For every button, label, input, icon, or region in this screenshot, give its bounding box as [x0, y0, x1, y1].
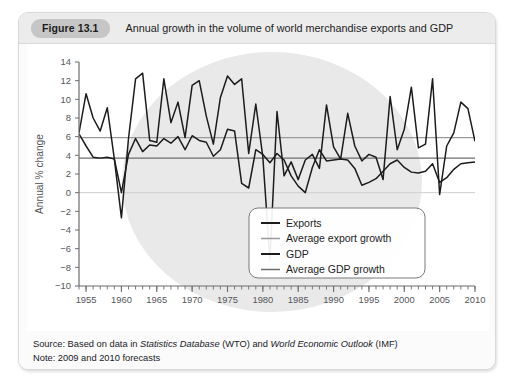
y-tick-label: 12: [61, 75, 71, 86]
y-axis-title: Annual % change: [34, 134, 45, 214]
x-tick-label: 1960: [111, 294, 132, 305]
y-tick-label: −4: [60, 224, 71, 235]
y-tick-label: −2: [60, 206, 71, 217]
legend-label: Average export growth: [286, 232, 392, 244]
y-tick-label: 4: [66, 150, 71, 161]
y-tick-label: −8: [60, 262, 71, 273]
x-tick-label: 1975: [217, 294, 238, 305]
line-chart: 14121086420−2−4−6−8−10 19551960196519701…: [27, 44, 489, 332]
chart-panel: 14121086420−2−4−6−8−10 19551960196519701…: [27, 44, 489, 332]
y-tick-label: 2: [66, 168, 71, 179]
legend-label: Average GDP growth: [286, 263, 385, 275]
x-tick-label: 2005: [429, 294, 450, 305]
x-tick-label: 1970: [182, 294, 203, 305]
x-tick-label: 1985: [288, 294, 309, 305]
y-tick-label: 6: [66, 131, 71, 142]
x-tick-label: 2000: [394, 294, 415, 305]
source-italic-1: Statistics Database: [140, 339, 220, 349]
forecast-note: Note: 2009 and 2010 forecasts: [33, 351, 495, 365]
x-tick-label: 1990: [323, 294, 344, 305]
legend-label: Exports: [286, 217, 322, 229]
source-prefix: Source: Based on data in: [33, 339, 140, 349]
x-tick-label: 1980: [252, 294, 273, 305]
source-italic-2: World Economic Outlook: [271, 339, 373, 349]
figure-footer: Source: Based on data in Statistics Data…: [19, 331, 495, 369]
y-tick-label: −6: [60, 243, 71, 254]
source-note: Source: Based on data in Statistics Data…: [33, 337, 495, 351]
figure-number-badge: Figure 13.1: [31, 19, 110, 38]
source-suffix: (IMF): [373, 339, 398, 349]
y-tick-label: 0: [66, 187, 71, 198]
y-tick-label: 8: [66, 112, 71, 123]
figure-title: Annual growth in the volume of world mer…: [126, 22, 454, 34]
x-tick-label: 1965: [146, 294, 167, 305]
figure-header: Figure 13.1 Annual growth in the volume …: [19, 13, 495, 44]
x-tick-label: 1995: [358, 294, 379, 305]
y-tick-label: 10: [61, 94, 71, 105]
y-tick-label: −10: [55, 280, 71, 291]
source-middle: (WTO) and: [220, 339, 271, 349]
chart-legend: ExportsAverage export growthGDPAverage G…: [249, 208, 425, 278]
x-tick-label: 1955: [76, 294, 97, 305]
figure-card: Figure 13.1 Annual growth in the volume …: [18, 12, 496, 370]
x-tick-label: 2010: [465, 294, 486, 305]
y-tick-label: 14: [61, 56, 71, 67]
legend-label: GDP: [286, 248, 309, 260]
